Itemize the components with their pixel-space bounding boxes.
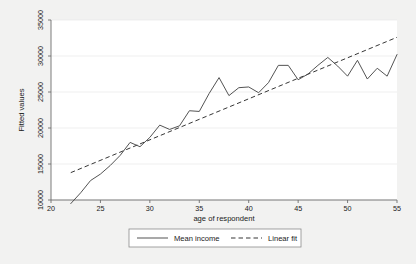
y-tick-label: 10000 [36,190,45,210]
chart-legend: Mean income Linear fit [129,229,301,247]
x-axis-title: age of respondent [193,214,255,223]
legend-label-mean-income: Mean income [174,234,220,243]
x-tick-label: 30 [146,204,154,213]
legend-label-linear-fit: Linear fit [268,234,298,243]
y-tick-label: 25000 [36,82,45,102]
y-tick-label: 35000 [36,10,45,30]
plot-area-background [51,20,397,200]
x-tick-label: 55 [393,204,401,213]
fitted-values-line-chart: 100001500020000250003000035000 202530354… [0,0,416,264]
y-tick-label: 30000 [36,46,45,66]
x-tick-label: 50 [344,204,352,213]
y-tick-label: 20000 [36,118,45,138]
y-axis-title: Fitted values [17,88,26,131]
x-tick-label: 25 [96,204,104,213]
chart-figure: 100001500020000250003000035000 202530354… [0,0,416,264]
x-tick-label: 20 [47,204,55,213]
y-tick-label: 15000 [36,154,45,174]
x-tick-label: 35 [195,204,203,213]
x-tick-label: 45 [294,204,302,213]
x-tick-label: 40 [245,204,253,213]
